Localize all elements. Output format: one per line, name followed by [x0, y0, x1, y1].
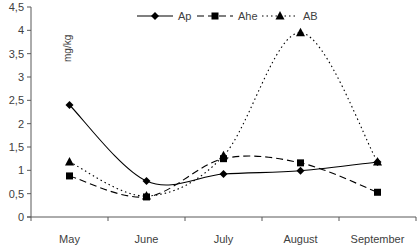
- legend: ApAheAB: [137, 10, 318, 22]
- diamond-marker-icon: [143, 177, 151, 185]
- series-ap: [66, 101, 382, 185]
- triangle-marker-icon: [219, 151, 228, 160]
- x-tick-label: June: [135, 233, 159, 245]
- y-axis-label: mg/kg: [62, 35, 73, 62]
- legend-item-ab: AB: [262, 10, 318, 22]
- y-tick-label: 0,5: [9, 188, 24, 200]
- y-tick-label: 2,5: [9, 94, 24, 106]
- y-tick-label: 4,5: [9, 1, 24, 13]
- legend-label: AB: [303, 10, 318, 22]
- y-tick-label: 3: [18, 71, 24, 83]
- diamond-marker-icon: [297, 167, 305, 175]
- y-tick-label: 3,5: [9, 48, 24, 60]
- x-tick-label: July: [214, 233, 234, 245]
- y-tick-label: 1: [18, 164, 24, 176]
- triangle-marker-icon: [296, 28, 305, 37]
- line-chart: 00,511,522,533,544,5 MayJuneJulyAugustSe…: [0, 0, 420, 246]
- legend-triangle-icon: [276, 11, 285, 20]
- x-tick-label: September: [351, 233, 405, 245]
- square-marker-icon: [297, 159, 304, 166]
- x-tick-label: May: [59, 233, 80, 245]
- legend-item-ahe: Ahe: [197, 10, 258, 22]
- x-axis: MayJuneJulyAugustSeptember: [27, 217, 416, 245]
- diamond-marker-icon: [220, 170, 228, 178]
- series-lines: [65, 28, 382, 201]
- triangle-marker-icon: [65, 157, 74, 166]
- legend-item-ap: Ap: [137, 10, 191, 22]
- square-marker-icon: [66, 172, 73, 179]
- x-tick-label: August: [283, 233, 317, 245]
- y-tick-label: 2: [18, 118, 24, 130]
- y-tick-label: 4: [18, 24, 24, 36]
- legend-diamond-icon: [151, 12, 159, 20]
- legend-label: Ap: [178, 10, 191, 22]
- y-tick-label: 0: [18, 211, 24, 223]
- legend-square-icon: [212, 13, 219, 20]
- y-tick-label: 1,5: [9, 141, 24, 153]
- square-marker-icon: [374, 189, 381, 196]
- y-axis: 00,511,522,533,544,5: [9, 1, 31, 223]
- legend-label: Ahe: [238, 10, 258, 22]
